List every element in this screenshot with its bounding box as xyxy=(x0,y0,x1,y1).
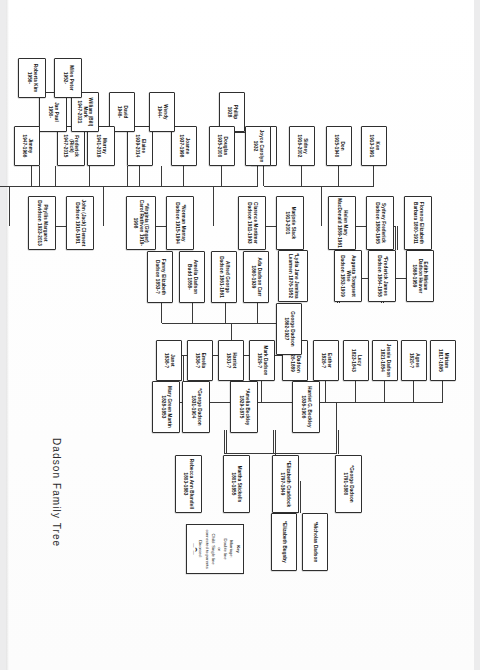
person-node[interactable]: Phyllis MargaretDavidson 1923-2013 xyxy=(28,196,56,250)
person-dates: 1947-2015 xyxy=(63,128,69,164)
descent-line xyxy=(321,186,322,226)
person-node[interactable]: Jessie Dadson1821-1854 xyxy=(372,340,398,381)
person-node[interactable]: *George Dadson1831-1904 xyxy=(182,381,210,433)
person-node[interactable]: Ken 1913-1991 xyxy=(361,126,387,166)
person-node[interactable]: Sidney 1916-2002 xyxy=(289,126,315,166)
person-name: *Frederick James xyxy=(382,252,388,300)
legend-divorced-symbol: —⁀— xyxy=(192,527,198,571)
person-node[interactable]: John (Jack) ClementDadson 1916-1981 xyxy=(66,196,94,250)
person-node[interactable]: Fanny ElizabethDadson 1853-? xyxy=(147,251,173,303)
person-node[interactable]: *Norman MurrayDadson 1915-1994 xyxy=(166,196,194,250)
person-name: Joanne xyxy=(184,128,190,164)
person-name: *Nicholas Dadson xyxy=(312,515,318,569)
person-node[interactable]: Clarence MortimerDadson 1911-1993 xyxy=(238,196,266,250)
person-node[interactable]: Miriam1817-1895 xyxy=(430,340,456,381)
person-node[interactable]: Marjorie Slack1913-2001 xyxy=(276,196,304,250)
person-name: *Norman Murray xyxy=(180,198,186,248)
person-node[interactable]: Augusta Tompsett WiseDadson 1852-1909 xyxy=(334,250,362,302)
sibling-line xyxy=(139,166,140,186)
marriage-link xyxy=(224,430,227,454)
person-node[interactable]: Roberta Kim 1956- xyxy=(18,58,46,98)
person-node[interactable]: Esther1826-? xyxy=(313,340,339,381)
person-node[interactable]: Mark Dadson1829-? xyxy=(249,340,275,381)
sibling-line xyxy=(325,381,326,402)
person-node[interactable]: *Frederick JamesDadson 1864-1958 xyxy=(368,250,396,302)
sibling-line xyxy=(373,166,374,186)
person-node[interactable]: Lucy1823-1843 xyxy=(343,340,369,381)
person-dates: 1946- xyxy=(116,94,122,130)
person-node[interactable]: *Elizabeth Craddock1797-1849 xyxy=(272,455,299,513)
sibling-line xyxy=(257,166,258,186)
person-node[interactable]: *Nicholas Dadson xyxy=(302,513,328,571)
person-node[interactable]: Edith MiriamDadson Heaver 1868-1959 xyxy=(406,250,434,302)
person-dates: 1947-1966 xyxy=(21,128,27,164)
descent-line xyxy=(9,186,10,226)
person-name: Roberta Kim xyxy=(32,60,38,96)
person-node[interactable]: Harriot1831-? xyxy=(218,340,244,381)
person-node[interactable]: Jimmy 1947-1966 xyxy=(14,126,40,166)
person-node[interactable]: Jan Paul 1950- xyxy=(39,92,67,132)
person-name: William (Bill) Mark xyxy=(82,94,93,130)
person-node[interactable]: *Lydia Jane JemimaLearmen 1876-1952 xyxy=(278,250,308,302)
person-name: *George Dadson xyxy=(196,383,202,431)
person-name: Helen Mary xyxy=(342,198,348,248)
person-node[interactable]: Sydney FrederickDadson 1886-1965 xyxy=(366,196,394,250)
person-node[interactable]: Agnes1820-? xyxy=(401,340,427,381)
sibling-spine xyxy=(264,186,374,187)
person-node[interactable]: Frederick (Rick) 1947-2015 xyxy=(57,126,85,166)
person-node[interactable]: Martha Stickells1801-1855 xyxy=(223,455,250,513)
person-node[interactable]: *Elizabeth Bugsby xyxy=(271,513,297,571)
person-name: Rebecca Ann Blundell xyxy=(189,457,195,511)
person-name: Lucy xyxy=(356,342,362,379)
person-name: John (Jack) Clement xyxy=(80,198,86,248)
person-node[interactable]: Amelia DadsonBudd 1858- xyxy=(179,251,205,303)
page-title: Dadson Family Tree xyxy=(51,438,62,547)
person-node[interactable]: Murray 1941-2016 xyxy=(87,126,115,166)
person-node[interactable]: Wendy 1944- xyxy=(149,92,175,132)
person-node[interactable]: William (Bill) Mark 1947-2021 xyxy=(71,92,99,132)
person-node[interactable]: Douglas 1935-2000 xyxy=(209,126,235,166)
person-node[interactable]: Joyce Carolyn 1932 xyxy=(245,126,271,166)
person-name: Phillip xyxy=(232,94,238,130)
person-dates: Carol Ruthven 1919-1998 xyxy=(133,198,144,248)
person-dates: 1823-1843 xyxy=(350,342,356,379)
person-name: Harriet G. Beckley xyxy=(306,383,312,431)
person-node[interactable]: *Virginia (Ginger)Carol Ruthven 1919-199… xyxy=(126,196,156,250)
person-node[interactable]: Ada Dadson Carr1860-1939 xyxy=(243,251,269,303)
person-node[interactable]: *George Dadson1791-1880 xyxy=(335,455,362,513)
person-node[interactable]: Emelia1836-? xyxy=(187,340,213,381)
person-dates: 1826-? xyxy=(320,342,326,379)
person-node[interactable]: Don 1915-1940 xyxy=(326,126,352,166)
person-name: Ada Dadson Carr xyxy=(256,253,262,301)
person-name: Agnes xyxy=(414,342,420,379)
person-dates: 1950- xyxy=(47,94,53,130)
person-dates: 1836-? xyxy=(194,342,200,379)
sibling-line xyxy=(225,303,226,323)
person-node[interactable]: Alfred GeorgeDadson 1861-1861 xyxy=(211,251,237,303)
person-node[interactable]: Harriet G. Beckley1836-1906 xyxy=(292,381,320,433)
sibling-line xyxy=(89,166,90,186)
person-node[interactable]: Florence ElizabethBarbara 1800-1911 xyxy=(404,196,432,250)
person-node[interactable]: *Amelia Beckley1829-1875 xyxy=(230,381,258,433)
person-dates: 1937-1998 xyxy=(178,128,184,164)
sibling-line xyxy=(161,166,162,186)
sibling-line xyxy=(355,381,356,402)
sibling-line xyxy=(338,166,339,186)
person-node[interactable]: Janet1838-? xyxy=(156,340,182,381)
person-node[interactable]: Joanne 1937-1998 xyxy=(171,126,197,166)
person-node[interactable]: Helen MaryMacDonald 1889-1961 xyxy=(328,196,356,250)
legend-line: connected to parents xyxy=(204,527,210,571)
legend-title: Key xyxy=(235,527,241,571)
person-dates: MacDonald 1889-1961 xyxy=(336,198,342,248)
person-dates: 1935-2000 xyxy=(216,128,222,164)
person-node[interactable]: George Dadson1862-1927 xyxy=(276,303,302,355)
person-node[interactable]: Mary Green Martin1828-1853 xyxy=(152,381,180,433)
person-node[interactable]: Rebecca Ann Blundell1803-1883 xyxy=(175,455,202,513)
person-dates: 1913-1991 xyxy=(368,128,374,164)
sibling-line xyxy=(261,381,262,402)
person-name: Augusta Tompsett Wise xyxy=(345,252,356,300)
sibling-line xyxy=(301,166,302,186)
person-node[interactable]: Elaine 1939-2014 xyxy=(127,126,153,166)
person-name: *George Dadson xyxy=(349,457,355,511)
person-node[interactable]: Miles Peter 1952- xyxy=(54,58,82,98)
